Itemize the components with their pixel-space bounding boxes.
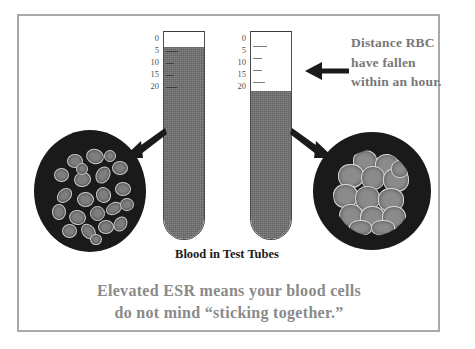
clumped-red-blood-cells — [313, 132, 431, 250]
red-blood-cell — [92, 164, 113, 187]
cell-aggregate — [333, 150, 413, 236]
tube-body — [250, 31, 292, 240]
tube-caption: Blood in Test Tubes — [127, 247, 327, 262]
red-blood-cell — [111, 214, 131, 235]
graduation-tick — [253, 82, 265, 83]
scale-tick-label: 0 — [137, 34, 159, 43]
graduation-tick — [166, 75, 174, 76]
scale-tick-label: 10 — [137, 58, 159, 67]
graduation-tick — [253, 70, 262, 71]
red-blood-cell — [54, 185, 75, 206]
scale-tick-label: 5 — [224, 46, 246, 55]
figure-frame: 0 5 10 15 20 0 5 10 15 20 — [17, 14, 440, 332]
scale-tick-label: 10 — [224, 58, 246, 67]
bottom-caption-line-2: do not mind “sticking together.” — [29, 302, 429, 324]
graduation-tick — [253, 58, 262, 59]
right-tube-scale: 0 5 10 15 20 — [224, 34, 246, 104]
callout-line-2: have fallen — [351, 53, 451, 73]
red-blood-cell — [76, 163, 88, 175]
red-blood-cell — [77, 192, 94, 207]
scale-tick-label: 5 — [137, 46, 159, 55]
callout-line-3: within an hour. — [351, 72, 451, 92]
red-blood-cell — [84, 147, 106, 167]
normal-esr-tube — [163, 31, 205, 240]
elevated-esr-tube — [250, 31, 292, 240]
graduation-tick — [253, 46, 267, 47]
red-blood-cell — [120, 198, 134, 211]
red-blood-cell — [90, 234, 102, 245]
aggregated-cell — [391, 160, 409, 178]
esr-illustration: 0 5 10 15 20 0 5 10 15 20 — [0, 0, 475, 349]
aggregated-cell — [371, 220, 395, 236]
scale-tick-label: 15 — [224, 70, 246, 79]
blood-column — [251, 91, 291, 239]
scale-tick-label: 0 — [224, 34, 246, 43]
red-blood-cell — [104, 150, 116, 162]
callout-line-1: Distance RBC — [351, 33, 451, 53]
scale-tick-label: 20 — [137, 82, 159, 91]
tube-body — [163, 31, 205, 240]
aggregated-cell — [349, 220, 372, 236]
graduation-tick — [166, 87, 177, 88]
dispersed-red-blood-cells — [34, 130, 146, 252]
graduation-tick — [166, 63, 174, 64]
red-blood-cell — [90, 206, 105, 221]
left-tube-scale: 0 5 10 15 20 — [137, 34, 159, 104]
bottom-caption-line-1: Elevated ESR means your blood cells — [29, 280, 429, 302]
graduation-tick — [166, 51, 178, 52]
red-blood-cell — [52, 204, 66, 220]
red-blood-cell — [62, 224, 77, 238]
red-blood-cell — [115, 182, 131, 196]
bottom-caption: Elevated ESR means your blood cells do n… — [29, 280, 429, 323]
plasma-layer — [251, 32, 291, 94]
red-blood-cell — [98, 220, 114, 234]
scale-tick-label: 20 — [224, 82, 246, 91]
arrow-left-icon — [305, 60, 349, 82]
callout-text: Distance RBC have fallen within an hour. — [351, 33, 451, 92]
red-blood-cell — [54, 168, 69, 182]
red-blood-cell — [112, 161, 128, 175]
scale-tick-label: 15 — [137, 70, 159, 79]
